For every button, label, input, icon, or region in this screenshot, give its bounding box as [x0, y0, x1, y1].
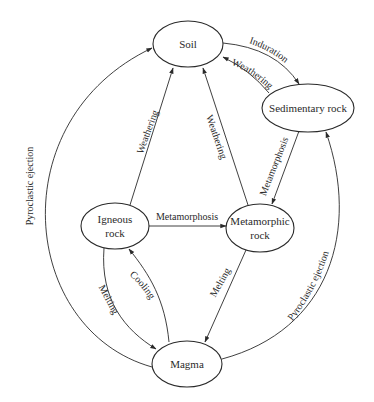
edge-magma-to-igneous: Cooling	[128, 249, 169, 342]
edge-label-metamorphosis-igneous: Metamorphosis	[156, 211, 218, 222]
rock-cycle-diagram: Pyroclastic ejection Pyroclastic ejectio…	[0, 0, 374, 402]
edge-label-weathering-sedimentary: Weathering	[231, 56, 276, 91]
node-label-igneous-line1: Igneous	[98, 213, 133, 225]
node-label-metamorphic-line1: Metamorphic	[230, 215, 289, 227]
node-label-igneous-line2: rock	[105, 227, 125, 239]
node-label-sedimentary-rock: Sedimentary rock	[269, 102, 347, 114]
edge-sedimentary-to-soil: Weathering	[223, 56, 276, 93]
edge-label-melting-metamorphic: Melting	[207, 266, 232, 299]
node-soil: Soil	[153, 21, 223, 67]
edge-label-pyroclastic-ejection-left: Pyroclastic ejection	[24, 147, 35, 226]
edge-label-weathering-igneous: Weathering	[134, 108, 160, 155]
edge-igneous-to-soil: Weathering	[130, 68, 173, 205]
node-sedimentary-rock: Sedimentary rock	[262, 84, 354, 132]
node-metamorphic-rock: Metamorphic rock	[226, 204, 294, 252]
node-label-metamorphic-line2: rock	[250, 229, 270, 241]
node-label-magma: Magma	[170, 358, 204, 370]
edge-label-melting-igneous: Melting	[97, 283, 122, 316]
node-label-soil: Soil	[179, 38, 197, 50]
node-igneous-rock: Igneous rock	[81, 203, 149, 249]
edge-label-pyroclastic-ejection-right: Pyroclastic ejection	[285, 249, 331, 322]
edge-metamorphic-to-soil: Weathering	[203, 68, 248, 205]
edge-sedimentary-to-metamorphic: Metamorphosis	[257, 131, 299, 204]
edge-metamorphic-to-magma: Melting	[205, 250, 246, 342]
edge-label-metamorphosis-sedimentary: Metamorphosis	[257, 135, 290, 197]
node-magma: Magma	[152, 341, 222, 387]
edge-igneous-to-metamorphic: Metamorphosis	[148, 211, 226, 226]
